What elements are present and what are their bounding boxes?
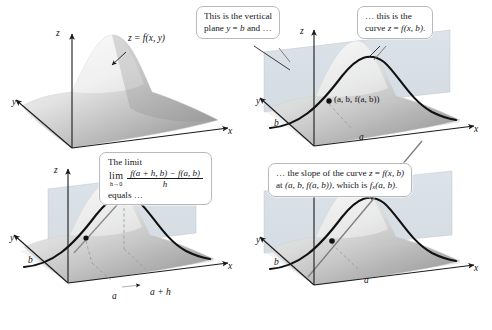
callout-limit-heading: The limit [108,156,203,168]
leader-vertical-plane [279,48,290,62]
callout-slope-at: at [276,180,285,190]
callout-slope-post: . [395,180,397,190]
callout-slope-point: (a, b, f(a, b)) [285,180,332,190]
callout-slope-mid: , which is [332,180,370,190]
limit-subscript: h→0 [110,181,122,187]
callout-vertical-plane: This is the vertical plane y = b and … [196,6,280,39]
callout-limit-expression: lim h→0 f(a + h, b) − f(a, b) h [109,168,203,189]
callout-leaders [0,0,492,330]
callout-curve-line2: curve z = f(x, b). [365,22,425,34]
callout-vertical-plane-line2: plane y = b and … [204,22,272,34]
callout-curve-args: (x, b) [404,23,423,33]
callout-slope-line2: at (a, b, f(a, b)), which is fx(a, b). [276,179,404,192]
callout-vertical-plane-line1: This is the vertical [204,10,272,22]
callout-slope-eq: = [372,168,382,178]
callout-limit: The limit lim h→0 f(a + h, b) − f(a, b) … [99,152,212,205]
callout-curve-line1: … this is the [365,10,425,22]
callout-curve: … this is the curve z = f(x, b). [357,6,433,39]
leader-curve [374,46,386,60]
limit-operator: lim h→0 [109,171,123,187]
callout-limit-trailer: equals … [108,189,203,201]
callout-curve-post: . [423,23,425,33]
limit-numerator: f(a + h, b) − f(a, b) [127,168,203,178]
limit-fraction: f(a + h, b) − f(a, b) h [127,168,203,189]
callout-vertical-plane-eq: = [230,23,240,33]
limit-denominator: h [127,178,203,189]
callout-curve-eq: = [391,23,401,33]
callout-vertical-plane-post: and … [245,23,272,33]
callout-slope-pre: … the slope of the curve [276,168,369,178]
callout-slope-line1: … the slope of the curve z = f(x, b) [276,167,404,179]
callout-slope: … the slope of the curve z = f(x, b) at … [268,163,412,197]
callout-slope-args: (a, b) [375,180,395,190]
callout-curve-pre: curve [365,23,388,33]
callout-vertical-plane-pre: plane [204,23,226,33]
callout-slope-f: f(x, b) [382,168,404,178]
